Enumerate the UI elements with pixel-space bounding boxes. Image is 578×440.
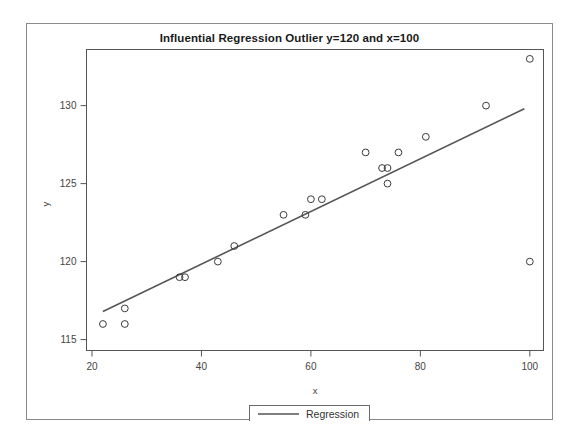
data-point-marker [280,211,287,218]
regression-line-path [103,109,524,312]
x-axis-title: x [313,385,318,396]
data-point-marker [526,258,533,265]
data-point-marker [384,180,391,187]
data-point-marker [362,149,369,156]
data-point-marker [307,196,314,203]
data-point-marker [100,321,107,328]
graph-outer-frame: Influential Regression Outlier y=120 and… [26,23,553,420]
y-axis-ticks: 115120125130 [60,100,87,345]
data-point-marker [483,102,490,109]
x-tick-label: 40 [196,361,208,372]
data-point-marker [214,258,221,265]
x-tick-label: 100 [521,361,538,372]
chart-legend[interactable]: Regression [250,406,370,422]
data-point-marker [422,133,429,140]
data-points-group [100,55,534,327]
x-tick-label: 20 [86,361,98,372]
screenshot-root: Influential Regression Outlier y=120 and… [0,0,578,440]
x-tick-label: 60 [305,361,317,372]
data-point-marker [121,305,128,312]
data-point-marker [318,196,325,203]
y-tick-label: 125 [60,178,77,189]
y-tick-label: 130 [60,100,77,111]
y-axis-title: y [40,201,51,206]
scatter-plot-canvas: 20406080100 115120125130 x y Regression [27,24,554,421]
data-point-marker [121,321,128,328]
data-point-marker [526,55,533,62]
y-tick-label: 120 [60,256,77,267]
regression-line [103,109,524,312]
x-tick-label: 80 [415,361,427,372]
legend-label-regression: Regression [306,408,359,420]
data-point-marker [395,149,402,156]
y-tick-label: 115 [61,334,77,345]
plot-area-border [87,50,544,351]
x-axis-ticks: 20406080100 [86,351,538,372]
